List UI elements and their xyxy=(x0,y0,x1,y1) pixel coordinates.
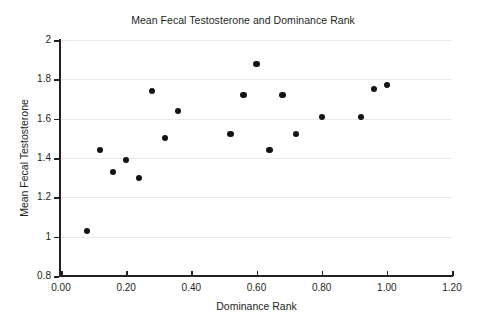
chart-title: Mean Fecal Testosterone and Dominance Ra… xyxy=(0,14,486,26)
x-axis-tick xyxy=(126,271,128,276)
data-point xyxy=(123,157,129,163)
y-axis-tick xyxy=(54,276,59,278)
y-axis-tick-label: 0.8 xyxy=(37,270,51,281)
gridline-horizontal xyxy=(61,197,452,198)
data-point xyxy=(279,92,285,98)
y-axis-tick-label: 1 xyxy=(45,231,51,242)
data-point xyxy=(84,228,90,234)
y-axis-tick-label: 1.8 xyxy=(37,73,51,84)
data-point xyxy=(162,135,168,141)
x-axis-tick-label: 1.20 xyxy=(432,282,472,293)
data-point xyxy=(266,147,272,153)
gridline-horizontal xyxy=(61,79,452,80)
scatter-chart: Mean Fecal Testosterone and Dominance Ra… xyxy=(0,0,486,336)
data-point xyxy=(97,147,103,153)
x-axis-tick-label: 0.00 xyxy=(41,282,81,293)
y-axis-tick-label: 2 xyxy=(45,34,51,45)
y-axis-tick xyxy=(54,119,59,121)
x-axis-tick xyxy=(322,271,324,276)
data-point xyxy=(136,175,142,181)
x-axis-tick-label: 0.40 xyxy=(171,282,211,293)
y-axis-tick xyxy=(54,237,59,239)
x-axis-title: Dominance Rank xyxy=(61,300,452,312)
y-axis-tick xyxy=(54,79,59,81)
gridline-horizontal xyxy=(61,158,452,159)
y-axis-tick xyxy=(54,158,59,160)
y-axis-line xyxy=(59,39,61,277)
data-point xyxy=(384,82,390,88)
y-axis-tick-label: 1.6 xyxy=(37,113,51,124)
data-point xyxy=(293,131,299,137)
gridline-horizontal xyxy=(61,119,452,120)
x-axis-tick xyxy=(452,271,454,276)
plot-area xyxy=(61,40,452,276)
data-point xyxy=(149,88,155,94)
x-axis-tick xyxy=(191,271,193,276)
x-axis-tick xyxy=(61,271,63,276)
x-axis-tick-label: 0.20 xyxy=(106,282,146,293)
data-point xyxy=(358,114,364,120)
x-axis-tick-label: 0.80 xyxy=(302,282,342,293)
data-point xyxy=(319,114,325,120)
x-axis-tick xyxy=(257,271,259,276)
y-axis-tick xyxy=(54,197,59,199)
y-axis-title: Mean Fecal Testosterone xyxy=(18,40,30,276)
gridline-horizontal xyxy=(61,40,452,41)
x-axis-tick-label: 0.60 xyxy=(237,282,277,293)
x-axis-tick-label: 1.00 xyxy=(367,282,407,293)
y-axis-tick xyxy=(54,40,59,42)
data-point xyxy=(253,61,259,67)
x-axis-tick xyxy=(387,271,389,276)
data-point xyxy=(240,92,246,98)
gridline-horizontal xyxy=(61,237,452,238)
data-point xyxy=(371,86,377,92)
y-axis-tick-label: 1.4 xyxy=(37,152,51,163)
data-point xyxy=(175,108,181,114)
data-point xyxy=(227,131,233,137)
data-point xyxy=(110,169,116,175)
y-axis-tick-label: 1.2 xyxy=(37,191,51,202)
